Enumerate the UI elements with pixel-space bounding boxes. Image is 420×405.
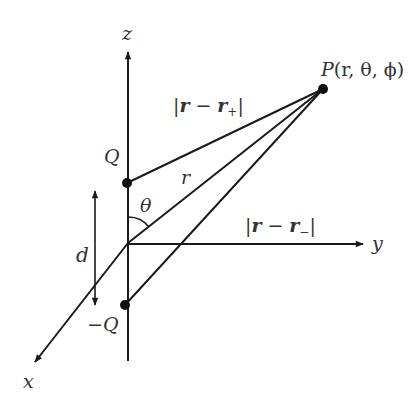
r-label: r bbox=[181, 166, 192, 188]
minus-distance-line bbox=[125, 89, 323, 305]
positive-charge-label: Q bbox=[104, 145, 120, 167]
dipole-diagram: z y x Q −Q P(r, θ, ϕ) r θ d |r−r+| |r−r−… bbox=[0, 0, 420, 405]
theta-arc bbox=[128, 217, 149, 227]
plus-distance-label: |r−r+| bbox=[173, 94, 244, 119]
separation-label: d bbox=[76, 243, 89, 267]
theta-label: θ bbox=[140, 194, 152, 216]
negative-charge-label: −Q bbox=[87, 313, 119, 335]
negative-charge-dot bbox=[120, 300, 130, 310]
z-axis-label: z bbox=[121, 22, 133, 44]
x-axis-label: x bbox=[23, 370, 34, 392]
point-p-label: P(r, θ, ϕ) bbox=[320, 58, 404, 80]
point-p-dot bbox=[318, 84, 328, 94]
y-axis-label: y bbox=[371, 232, 383, 254]
positive-charge-dot bbox=[122, 178, 132, 188]
minus-distance-label: |r−r−| bbox=[245, 214, 316, 239]
